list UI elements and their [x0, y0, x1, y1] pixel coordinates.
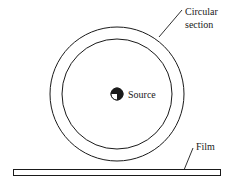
- source-icon: [111, 88, 123, 100]
- film-label: Film: [196, 141, 215, 152]
- radiography-diagram: Source Circular section Film: [0, 0, 233, 188]
- circular-section-label-line2: section: [185, 19, 213, 30]
- film-leader: [184, 148, 193, 170]
- circular-section-label-line1: Circular: [185, 6, 218, 17]
- circular-section-leader: [159, 10, 182, 37]
- source-label: Source: [128, 89, 156, 100]
- film-rect: [14, 170, 221, 176]
